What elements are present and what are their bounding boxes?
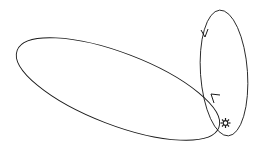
orbit-diagram [0, 0, 261, 149]
arrow-up-left-icon [211, 94, 220, 103]
sun-icon [221, 118, 231, 128]
vertical-orbit [196, 9, 252, 138]
large-orbit [4, 17, 231, 149]
